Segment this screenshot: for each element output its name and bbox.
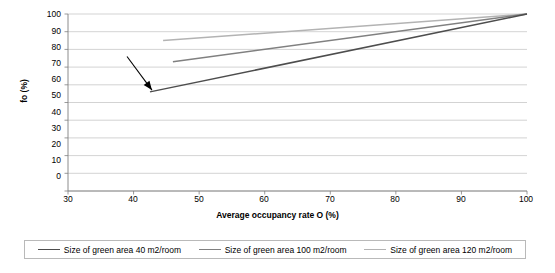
gridlines-group: [68, 14, 527, 191]
legend-item: Size of green area 120 m2/room: [364, 245, 512, 255]
legend-item: Size of green area 40 m2/room: [38, 245, 181, 255]
data-series-group: [150, 14, 527, 92]
series-line: [150, 14, 527, 92]
legend-item: Size of green area 100 m2/room: [199, 245, 347, 255]
legend-line-swatch: [38, 249, 60, 250]
chart-legend: Size of green area 40 m2/room Size of gr…: [24, 240, 526, 259]
annotation-arrow-head: [144, 81, 152, 90]
legend-line-swatch: [364, 249, 386, 250]
legend-line-swatch: [199, 249, 221, 250]
legend-label: Size of green area 100 m2/room: [225, 245, 347, 255]
chart-figure: 100 90 80 70 60 50 40 30 20 10 0 30 40 5…: [0, 0, 555, 273]
axis-ticks-group: [65, 14, 528, 195]
series-line: [173, 14, 527, 62]
legend-label: Size of green area 40 m2/room: [64, 245, 181, 255]
chart-canvas: [0, 0, 555, 225]
legend-label: Size of green area 120 m2/room: [390, 245, 512, 255]
plot-area-wrapper: 100 90 80 70 60 50 40 30 20 10 0 30 40 5…: [0, 0, 555, 225]
series-line: [163, 14, 527, 41]
